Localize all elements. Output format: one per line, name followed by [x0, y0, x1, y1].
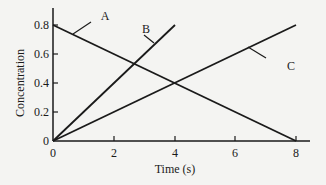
series-b-leader	[144, 35, 154, 43]
series-a-leader	[73, 22, 91, 34]
series-c-label: C	[287, 59, 295, 73]
y-tick-label: 0	[43, 134, 49, 148]
series-b-line	[53, 25, 175, 141]
y-tick-label: 0.8	[34, 18, 49, 32]
y-tick-label: 0.2	[34, 105, 49, 119]
x-tick-label: 2	[111, 146, 117, 160]
x-tick-label: 0	[50, 146, 56, 160]
series-b-label: B	[142, 22, 150, 36]
series-c-leader	[248, 47, 266, 58]
x-axis-label: Time (s)	[155, 162, 196, 176]
x-tick-label: 6	[232, 146, 238, 160]
series-a-label: A	[101, 9, 110, 23]
x-tick-label: 4	[172, 146, 178, 160]
y-tick-label: 0.4	[34, 76, 49, 90]
concentration-time-chart: 0 0.2 0.4 0.6 0.8 0 2 4 6 8 Time (s) Con…	[0, 0, 326, 185]
y-tick-label: 0.6	[34, 47, 49, 61]
x-tick-label: 8	[293, 146, 299, 160]
y-axis-label: Concentration	[13, 49, 27, 117]
